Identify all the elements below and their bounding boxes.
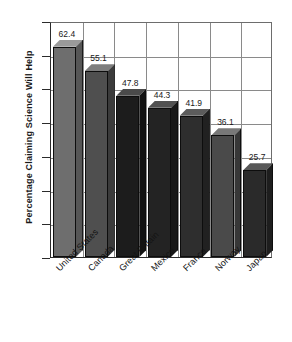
y-axis-tick-mark bbox=[42, 89, 50, 90]
y-axis-tick-mark bbox=[42, 191, 50, 192]
gridline-vertical bbox=[146, 23, 147, 257]
bar-side-face bbox=[139, 89, 146, 257]
bar bbox=[53, 40, 76, 257]
y-axis-tick-mark bbox=[42, 22, 50, 23]
bar bbox=[243, 163, 266, 257]
gridline-vertical bbox=[210, 23, 211, 257]
y-axis-tick-mark bbox=[42, 157, 50, 158]
bar-front-face bbox=[53, 47, 76, 257]
bar-side-face bbox=[76, 40, 83, 257]
y-axis-tick-mark bbox=[42, 224, 50, 225]
bar-chart: Percentage Claiming Science Will Help 01… bbox=[0, 0, 292, 342]
bar-value-label: 62.4 bbox=[48, 29, 86, 39]
bar-front-face bbox=[243, 170, 266, 257]
bar bbox=[211, 128, 234, 257]
bar bbox=[180, 109, 203, 257]
bar-front-face bbox=[211, 135, 234, 257]
bar-side-face bbox=[266, 163, 273, 257]
bar bbox=[85, 64, 108, 257]
bar-value-label: 41.9 bbox=[175, 98, 213, 108]
bar-side-face bbox=[234, 128, 241, 257]
bar-side-face bbox=[108, 64, 115, 257]
gridline-vertical bbox=[241, 23, 242, 257]
bar bbox=[116, 89, 139, 257]
bar-value-label: 55.1 bbox=[80, 53, 118, 63]
bar-side-face bbox=[171, 101, 178, 257]
bar-front-face bbox=[116, 96, 139, 257]
y-axis-tick-mark bbox=[42, 258, 50, 259]
bar-front-face bbox=[180, 116, 203, 257]
bar-side-face bbox=[203, 109, 210, 257]
y-axis-tick-mark bbox=[42, 123, 50, 124]
bar-value-label: 47.8 bbox=[111, 78, 149, 88]
bar-value-label: 25.7 bbox=[238, 152, 276, 162]
y-axis-tick-mark bbox=[42, 56, 50, 57]
bar-value-label: 36.1 bbox=[206, 117, 244, 127]
y-axis-title: Percentage Claiming Science Will Help bbox=[24, 22, 34, 252]
